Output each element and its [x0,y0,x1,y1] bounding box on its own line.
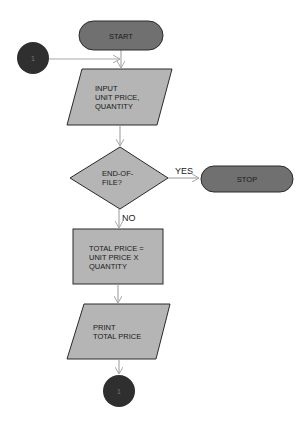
input-node: INPUT UNIT PRICE, QUANTITY [67,69,172,125]
stop-label: STOP [237,175,257,184]
edge-label-yes: YES [175,166,193,176]
flowchart-canvas: START 1 INPUT UNIT PRICE, QUANTITY END-O… [0,0,300,426]
process-line-2: UNIT PRICE X [89,253,138,262]
input-line-2: UNIT PRICE, [95,93,139,102]
print-node: PRINT TOTAL PRICE [67,304,170,359]
input-line-1: INPUT [95,84,118,93]
stop-terminator: STOP [201,166,293,192]
process-line-3: QUANTITY [89,262,127,271]
decision-line-1: END-OF- [102,169,134,178]
connector-top-label: 1 [31,55,35,62]
print-line-1: PRINT [93,323,116,332]
input-line-3: QUANTITY [95,102,133,111]
start-label: START [109,32,133,41]
edge-label-no: NO [122,213,136,223]
connector-bottom: 1 [103,375,135,407]
start-terminator: START [79,21,163,50]
process-node: TOTAL PRICE = UNIT PRICE X QUANTITY [73,229,163,284]
decision-line-2: FILE? [102,178,122,187]
process-line-1: TOTAL PRICE = [89,244,144,253]
connector-bottom-label: 1 [117,388,121,395]
decision-node: END-OF- FILE? [70,147,168,209]
connector-top: 1 [17,42,49,74]
print-line-2: TOTAL PRICE [93,332,141,341]
